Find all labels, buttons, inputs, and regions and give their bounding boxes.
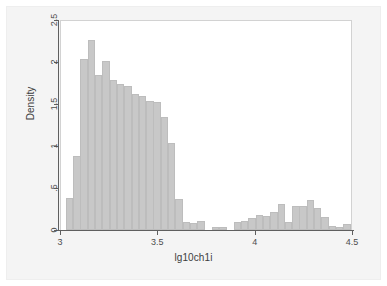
histogram-bar — [285, 222, 292, 230]
histogram-bar — [66, 198, 73, 230]
x-axis-tick-label: 3.5 — [151, 237, 164, 247]
histogram-bar — [234, 222, 241, 230]
histogram-bar — [263, 216, 270, 230]
histogram-bar — [241, 221, 248, 230]
histogram-bar — [139, 96, 146, 230]
x-axis-tick-label: 3 — [57, 237, 62, 247]
histogram-bar — [153, 102, 160, 230]
histogram-bars — [60, 20, 352, 230]
histogram-bar — [146, 101, 153, 230]
y-axis-tick-label: .5 — [49, 184, 59, 192]
x-axis-title: lg10ch1i — [0, 252, 387, 263]
histogram-bar — [314, 208, 321, 230]
histogram-bar — [161, 117, 168, 230]
histogram-bar — [168, 143, 175, 230]
x-axis-tick-label: 4 — [252, 237, 257, 247]
histogram-bar — [132, 94, 139, 230]
histogram-bar — [183, 222, 190, 230]
histogram-bar — [175, 199, 182, 230]
y-axis-tick-label: 2.5 — [49, 14, 59, 27]
y-axis-tick-label: 1.5 — [49, 98, 59, 111]
histogram-bar — [190, 223, 197, 230]
histogram-bar — [88, 40, 95, 230]
histogram-bar — [278, 204, 285, 230]
y-axis-tick-label: 2 — [49, 59, 59, 64]
y-axis-tick-label: 1 — [49, 143, 59, 148]
y-axis-tick-label: 0 — [49, 227, 59, 232]
histogram-bar — [117, 84, 124, 230]
y-axis-line — [58, 20, 59, 231]
histogram-bar — [292, 206, 299, 230]
histogram-bar — [248, 218, 255, 230]
x-axis-tick — [60, 231, 61, 235]
histogram-bar — [299, 206, 306, 230]
histogram-figure: 33.544.5 0.511.522.5 lg10ch1i Density — [0, 0, 387, 286]
histogram-bar — [80, 59, 87, 230]
x-axis-tick-label: 4.5 — [346, 237, 359, 247]
x-axis-tick — [157, 231, 158, 235]
histogram-bar — [321, 217, 328, 230]
histogram-bar — [307, 200, 314, 230]
histogram-bar — [124, 86, 131, 230]
histogram-bar — [95, 75, 102, 230]
x-axis-tick — [255, 231, 256, 235]
histogram-bar — [270, 212, 277, 230]
histogram-bar — [197, 221, 204, 230]
x-axis-line — [58, 230, 354, 231]
y-axis-title: Density — [25, 87, 36, 120]
x-axis-tick — [352, 231, 353, 235]
histogram-bar — [110, 80, 117, 230]
histogram-bar — [256, 215, 263, 230]
histogram-bar — [73, 156, 80, 230]
histogram-bar — [102, 61, 109, 230]
